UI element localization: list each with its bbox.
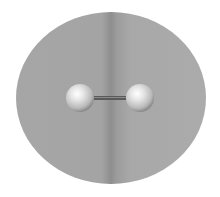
bond xyxy=(94,96,126,100)
molecule-svg xyxy=(0,0,220,197)
molecule-diagram xyxy=(0,0,220,197)
atom-left xyxy=(66,84,94,112)
atom-right xyxy=(126,84,154,112)
